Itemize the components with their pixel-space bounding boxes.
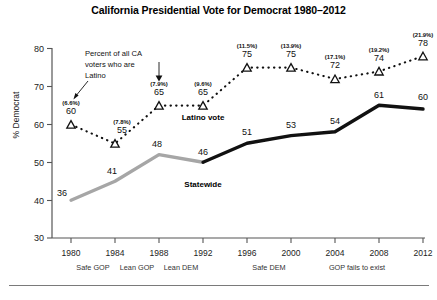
statewide-value-1980: 36 <box>57 188 67 198</box>
latino-value-1988: 65 <box>154 87 164 97</box>
statewide-value-2012: 60 <box>418 92 428 102</box>
latino-pct-2004: (17.1%) <box>325 54 346 60</box>
latino-value-2004: 72 <box>330 60 340 70</box>
latino-pct-1996: (11.5%) <box>237 43 257 49</box>
y-tick-40: 40 <box>34 196 44 206</box>
statewide-line-early <box>71 155 203 201</box>
latino-pct-1980: (6.6%) <box>62 100 79 106</box>
footer-divider <box>9 285 429 286</box>
latino-value-1984: 55 <box>117 125 127 135</box>
statewide-value-1992: 46 <box>198 147 208 157</box>
x-tick-1988: 1988 <box>150 248 169 258</box>
series-label-latino: Latino vote <box>182 113 225 122</box>
era-label-gop-fails: GOP fails to exist <box>329 263 385 272</box>
latino-value-1980: 60 <box>66 106 76 116</box>
latino-value-1996: 75 <box>242 49 252 59</box>
y-tick-marks <box>47 49 52 239</box>
x-tick-2000: 2000 <box>282 248 301 258</box>
latino-pct-2008: (19.2%) <box>369 47 390 53</box>
x-tick-1984: 1984 <box>106 248 125 258</box>
statewide-value-2000: 53 <box>286 120 296 130</box>
statewide-line-late <box>203 105 423 162</box>
chart-figure: California Presidential Vote for Democra… <box>0 0 437 300</box>
y-tick-60: 60 <box>34 120 44 130</box>
x-tick-2012: 2012 <box>414 248 433 258</box>
y-tick-50: 50 <box>34 158 44 168</box>
latino-value-2012: 78 <box>418 38 428 48</box>
x-tick-1980: 1980 <box>62 248 81 258</box>
era-label-safe-gop: Safe GOP <box>76 263 109 272</box>
latino-pct-2012: (21.9%) <box>413 32 434 38</box>
latino-pct-1992: (9.6%) <box>194 81 211 87</box>
statewide-value-2004: 54 <box>330 116 340 126</box>
series-label-statewide: Statewide <box>184 180 222 189</box>
note-line-2: voters who are <box>85 60 135 69</box>
latino-value-2000: 75 <box>286 49 296 59</box>
y-tick-80: 80 <box>34 44 44 54</box>
era-label-lean-gop: Lean GOP <box>120 263 155 272</box>
latino-value-2008: 74 <box>374 53 384 63</box>
latino-pct-1988: (7.9%) <box>150 81 167 87</box>
statewide-value-1988: 48 <box>152 139 162 149</box>
statewide-value-1984: 41 <box>107 166 117 176</box>
x-tick-2008: 2008 <box>370 248 389 258</box>
x-tick-1996: 1996 <box>238 248 257 258</box>
y-tick-70: 70 <box>34 82 44 92</box>
statewide-value-2008: 61 <box>374 90 384 100</box>
era-label-safe-dem: Safe DEM <box>252 263 285 272</box>
x-tick-1992: 1992 <box>194 248 213 258</box>
note-arrow-left-icon <box>73 81 88 100</box>
plot-area: 80 70 60 50 40 30 1980 1984 1988 1992 19… <box>0 0 437 300</box>
latino-value-1992: 65 <box>198 87 208 97</box>
x-tick-2004: 2004 <box>326 248 345 258</box>
note-line-3: Latino <box>85 71 106 80</box>
note-arrow-down-icon <box>156 62 163 82</box>
note-line-1: Percent of all CA <box>85 49 143 58</box>
latino-pct-1984: (7.8%) <box>113 119 130 125</box>
x-tick-marks <box>71 238 423 243</box>
statewide-value-1996: 51 <box>242 127 252 137</box>
y-tick-30: 30 <box>34 233 44 243</box>
latino-pct-2000: (13.9%) <box>281 43 302 49</box>
era-label-lean-dem: Lean DEM <box>164 263 198 272</box>
